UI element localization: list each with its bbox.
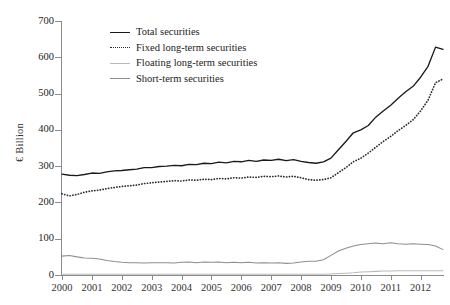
series-line-floating-long-term-securities (62, 271, 443, 275)
chart-container: € Billion 0100200300400500600700 2000200… (0, 0, 450, 305)
series-paths (0, 0, 450, 305)
series-line-short-term-securities (62, 243, 443, 264)
series-line-fixed-long-term-securities (62, 79, 443, 196)
series-line-total-securities (62, 47, 443, 175)
